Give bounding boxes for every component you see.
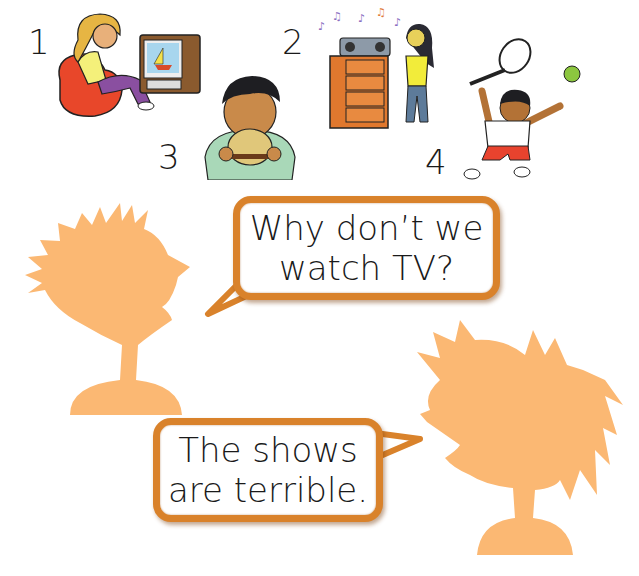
speech-bubble-b-line-1: The shows bbox=[168, 430, 368, 470]
boy-playing-tennis-illustration bbox=[460, 36, 585, 181]
picture-watch-tv bbox=[50, 10, 205, 122]
picture-number-4: 4 bbox=[425, 145, 447, 179]
speech-bubble-b-line-2: are terrible. bbox=[168, 470, 368, 510]
svg-text:♫: ♫ bbox=[332, 10, 342, 23]
svg-text:♪: ♪ bbox=[394, 16, 401, 29]
svg-text:♪: ♪ bbox=[318, 20, 325, 33]
picture-number-2: 2 bbox=[282, 25, 304, 59]
picture-listen-to-music: ♪♫♪♫♪ bbox=[310, 8, 440, 133]
girl-silhouette-icon bbox=[405, 310, 635, 560]
speaker-b-silhouette bbox=[405, 310, 635, 560]
svg-text:♪: ♪ bbox=[358, 12, 365, 25]
speech-bubble-a-line-2: watch TV? bbox=[250, 248, 484, 288]
speech-bubble-b: The shows are terrible. bbox=[153, 418, 383, 522]
svg-text:♫: ♫ bbox=[376, 8, 386, 19]
picture-play-tennis bbox=[460, 36, 585, 181]
speech-bubble-a: Why don’t we watch TV? bbox=[233, 196, 500, 300]
boy-eating-hamburger-illustration bbox=[200, 72, 300, 180]
girl-listening-music-illustration: ♪♫♪♫♪ bbox=[310, 8, 440, 133]
picture-number-3: 3 bbox=[158, 140, 180, 174]
speech-bubble-a-line-1: Why don’t we bbox=[250, 208, 484, 248]
picture-number-1: 1 bbox=[28, 25, 50, 59]
speaker-a-silhouette bbox=[20, 195, 200, 445]
girl-watching-tv-illustration bbox=[50, 10, 205, 122]
picture-eat-hamburger bbox=[200, 72, 300, 180]
boy-silhouette-icon bbox=[20, 195, 200, 445]
